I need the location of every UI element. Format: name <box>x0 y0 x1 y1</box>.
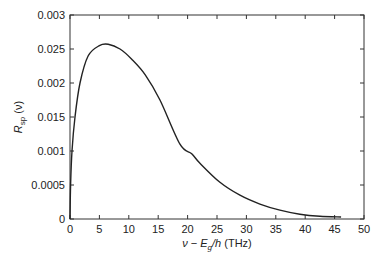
x-tick-label: 0 <box>67 223 73 235</box>
x-tick-label: 15 <box>152 223 164 235</box>
x-tick-label: 50 <box>358 223 370 235</box>
x-axis-label: ν − Eg/h (THz) <box>182 237 252 252</box>
x-tick-label: 5 <box>96 223 102 235</box>
x-tick-label: 30 <box>240 223 252 235</box>
x-tick-label: 20 <box>181 223 193 235</box>
y-tick-label: 0.001 <box>37 145 65 157</box>
y-axis-ticks: 00.00050.0010.0150.0020.0250.003 <box>31 9 364 225</box>
data-line <box>70 44 341 219</box>
y-tick-label: 0.002 <box>37 77 65 89</box>
x-tick-label: 40 <box>299 223 311 235</box>
y-axis-label: Rsp (ν) <box>12 101 27 133</box>
y-tick-label: 0.0005 <box>31 179 65 191</box>
x-tick-label: 10 <box>123 223 135 235</box>
x-tick-label: 35 <box>270 223 282 235</box>
x-axis-ticks: 05101520253035404550 <box>67 15 370 235</box>
x-tick-label: 25 <box>211 223 223 235</box>
y-tick-label: 0.003 <box>37 9 65 21</box>
y-tick-label: 0 <box>59 213 65 225</box>
x-tick-label: 45 <box>328 223 340 235</box>
y-tick-label: 0.015 <box>37 111 65 123</box>
chart: 05101520253035404550 00.00050.0010.0150.… <box>0 0 383 262</box>
y-tick-label: 0.025 <box>37 43 65 55</box>
